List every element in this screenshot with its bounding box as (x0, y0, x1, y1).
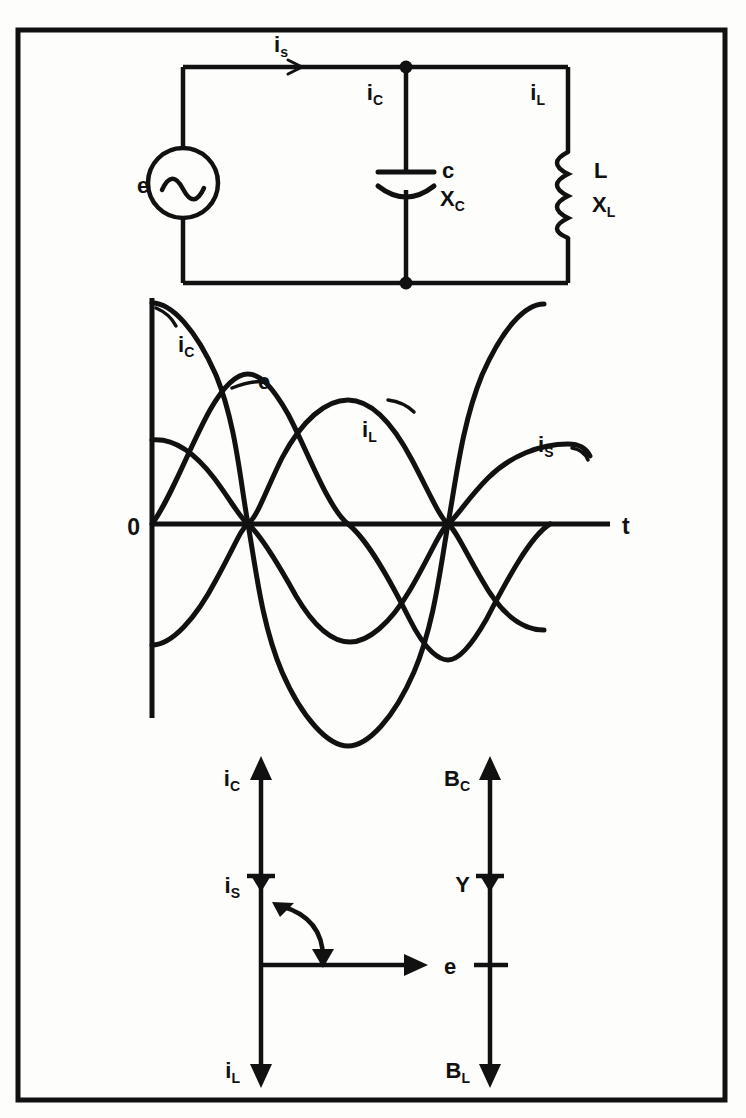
x-axis-label: t (622, 513, 630, 539)
phasor-label-e: e (444, 954, 456, 979)
junction-node-top (400, 61, 413, 74)
figure-canvas: e is iC iL c XC L XL 0 t (0, 0, 746, 1118)
origin-label: 0 (127, 514, 140, 540)
phasor-label-y: Y (455, 872, 470, 897)
page-background (0, 0, 746, 1118)
ac-source-icon (148, 148, 218, 218)
capacitor-label: c (442, 158, 454, 183)
source-label: e (137, 173, 149, 198)
technical-diagram-svg: e is iC iL c XC L XL 0 t (0, 0, 746, 1118)
inductor-label: L (594, 158, 607, 183)
junction-node-bottom (400, 277, 413, 290)
curve-label-e: e (258, 369, 270, 394)
